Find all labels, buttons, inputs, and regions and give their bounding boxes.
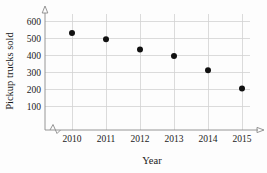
- y-tick-label-600: 600: [27, 17, 42, 27]
- x-tick-label-2014: 2014: [199, 134, 218, 144]
- data-point-2010: [69, 30, 75, 36]
- y-tick-labels: 600 500 400 300 200 100: [27, 17, 42, 112]
- data-point-2015: [239, 86, 245, 92]
- scatter-chart: 600 500 400 300 200 100 2010 2011 2012 2…: [0, 0, 267, 173]
- x-axis-break-icon: [50, 125, 61, 134]
- x-tick-label-2010: 2010: [63, 134, 82, 144]
- x-tick-label-2013: 2013: [165, 134, 184, 144]
- data-point-2011: [103, 36, 109, 42]
- x-axis-arrowhead-icon: [257, 127, 264, 132]
- y-tick-label-300: 300: [27, 68, 42, 78]
- x-tick-label-2015: 2015: [233, 134, 252, 144]
- horizontal-gridlines: [45, 21, 250, 106]
- data-point-2013: [171, 53, 177, 59]
- y-tick-label-400: 400: [27, 51, 42, 61]
- chart-canvas: 600 500 400 300 200 100 2010 2011 2012 2…: [0, 0, 267, 173]
- y-tick-label-500: 500: [27, 34, 42, 44]
- data-point-2014: [205, 67, 211, 73]
- data-points: [69, 30, 245, 92]
- x-tick-labels: 2010 2011 2012 2013 2014 2015: [63, 134, 252, 144]
- y-axis-arrowhead-icon: [42, 6, 48, 13]
- y-tick-label-200: 200: [27, 85, 42, 95]
- x-axis-title: Year: [142, 155, 162, 166]
- x-tick-label-2012: 2012: [131, 134, 150, 144]
- y-axis-title: Pickup trucks sold: [4, 31, 15, 109]
- x-axis: [45, 125, 264, 134]
- data-point-2012: [137, 47, 143, 53]
- y-tick-label-100: 100: [27, 102, 42, 112]
- y-axis: [42, 6, 48, 130]
- x-tick-label-2011: 2011: [97, 134, 116, 144]
